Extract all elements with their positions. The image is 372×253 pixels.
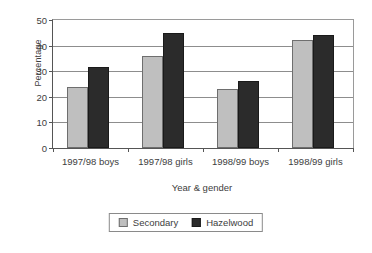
bar-secondary-0 xyxy=(67,87,88,148)
chart-legend: SecondaryHazelwood xyxy=(109,213,263,232)
bar-hazelwood-2 xyxy=(238,81,259,148)
bar-secondary-2 xyxy=(217,89,238,148)
legend-item-hazelwood: Hazelwood xyxy=(192,217,253,228)
x-axis-category-label: 1998/99 girls xyxy=(288,156,342,167)
x-axis-tick-mark xyxy=(353,148,354,152)
y-axis-tick-label: 10 xyxy=(36,117,47,128)
x-axis-tick-mark xyxy=(128,148,129,152)
x-axis-tick-mark xyxy=(53,148,54,152)
y-axis-tick-label: 50 xyxy=(36,15,47,26)
y-axis-tick-label: 40 xyxy=(36,40,47,51)
y-axis-tick-mark xyxy=(49,46,53,47)
legend-swatch-icon xyxy=(192,218,201,227)
legend-item-secondary: Secondary xyxy=(119,217,178,228)
legend-swatch-icon xyxy=(119,218,128,227)
x-axis-tick-mark xyxy=(278,148,279,152)
x-axis-category-label: 1997/98 boys xyxy=(62,156,119,167)
bar-hazelwood-1 xyxy=(163,33,184,148)
bar-secondary-3 xyxy=(292,40,313,148)
y-axis-tick-label: 0 xyxy=(42,143,47,154)
y-axis-tick-mark xyxy=(49,122,53,123)
y-axis-tick-mark xyxy=(49,20,53,21)
bar-hazelwood-0 xyxy=(88,67,109,148)
x-axis-title: Year & gender xyxy=(52,182,352,193)
legend-label: Hazelwood xyxy=(206,217,253,228)
x-axis-category-label: 1998/99 boys xyxy=(212,156,269,167)
legend-label: Secondary xyxy=(133,217,178,228)
y-axis-tick-label: 30 xyxy=(36,66,47,77)
x-axis-tick-mark xyxy=(203,148,204,152)
bar-chart-figure: Percentage 010203040501997/98 boys1997/9… xyxy=(0,0,372,253)
bar-secondary-1 xyxy=(142,56,163,148)
y-axis-tick-label: 20 xyxy=(36,91,47,102)
x-axis-category-label: 1997/98 girls xyxy=(138,156,192,167)
plot-area: 010203040501997/98 boys1997/98 girls1998… xyxy=(52,19,354,149)
bar-hazelwood-3 xyxy=(313,35,334,148)
y-axis-tick-mark xyxy=(49,71,53,72)
y-axis-tick-mark xyxy=(49,97,53,98)
